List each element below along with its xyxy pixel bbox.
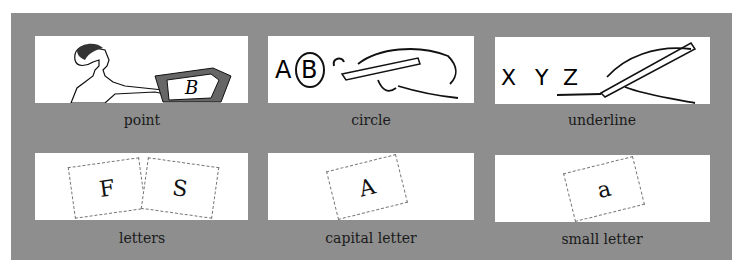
small-letter-card: a [495, 155, 710, 222]
woman-pointing-illustration: B [35, 36, 248, 103]
hand-underlining-letter-illustration: X Y Z [495, 37, 710, 104]
capital-letter-caption: capital letter [261, 230, 481, 246]
letter-b: B [184, 77, 198, 98]
letter-z: Z [563, 65, 578, 90]
letter-tile-small-a: a [563, 156, 645, 222]
letter-b: B [301, 56, 317, 84]
letters-card: F S [35, 153, 248, 220]
underline-caption: underline [492, 112, 712, 128]
letter-tile-capital-a: A [326, 154, 408, 220]
circle-caption: circle [261, 112, 481, 128]
letter-tile-s: S [141, 157, 220, 219]
letter-tile-f: F [68, 157, 147, 219]
small-letter-caption: small letter [492, 231, 712, 247]
underline-card: X Y Z [495, 37, 710, 104]
circle-card: A B [268, 36, 474, 103]
hand-circling-letter-illustration: A B [268, 36, 474, 103]
capital-letter-card: A [268, 153, 474, 220]
letters-caption: letters [32, 230, 252, 246]
letter-y: Y [534, 65, 549, 90]
letter-x: X [501, 65, 516, 90]
point-card: B [35, 36, 248, 103]
point-caption: point [32, 112, 252, 128]
letter-a: A [275, 56, 292, 84]
